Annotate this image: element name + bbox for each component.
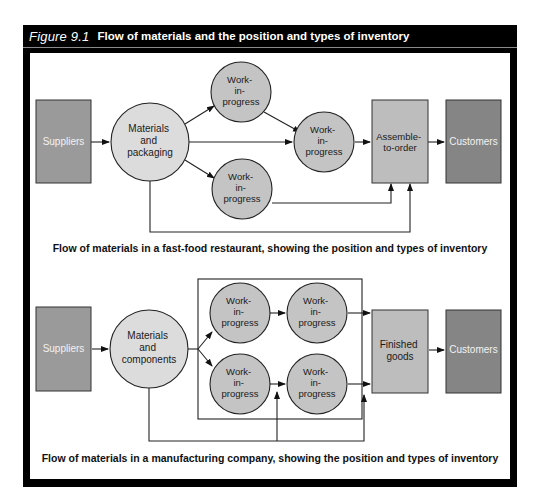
diagram-manufacturing: Suppliers Materials and components Work-… [36, 279, 501, 464]
figure-canvas: Suppliers Materials and packaging Work- … [30, 53, 510, 479]
caption-manufacturing: Flow of materials in a manufacturing com… [42, 452, 499, 464]
figure-frame: Figure 9.1 Flow of materials and the pos… [23, 25, 517, 487]
figure-number: Figure 9.1 [23, 29, 90, 44]
diagram-svg: Suppliers Materials and packaging Work- … [30, 53, 510, 479]
suppliers-label-manufacturing: Suppliers [43, 343, 85, 354]
suppliers-label: Suppliers [43, 136, 85, 147]
assemble-to-order-label: Assemble- to-order [376, 131, 424, 153]
diagram-fast-food: Suppliers Materials and packaging Work- … [36, 62, 501, 254]
figure-title: Flow of materials and the position and t… [98, 30, 410, 42]
customers-label-manufacturing: Customers [449, 344, 497, 355]
customers-label: Customers [449, 136, 497, 147]
caption-fast-food: Flow of materials in a fast-food restaur… [53, 242, 488, 254]
header-divider [23, 47, 517, 48]
figure-header: Figure 9.1 Flow of materials and the pos… [23, 25, 517, 47]
